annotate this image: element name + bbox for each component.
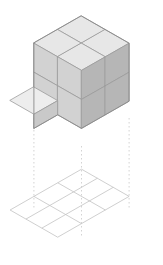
figure-root [0, 0, 163, 265]
grid-line-u-2 [42, 187, 113, 228]
cube-structure [10, 16, 129, 128]
grid-line-u-1 [26, 178, 97, 219]
isometric-figure-svg [0, 0, 163, 265]
grid-line-u-3 [58, 196, 129, 237]
base-grid [10, 169, 129, 237]
projection-lines [34, 118, 129, 237]
grid-line-u-0 [10, 169, 81, 210]
